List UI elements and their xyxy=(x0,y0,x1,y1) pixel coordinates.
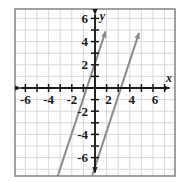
x-axis-label: x xyxy=(165,71,172,85)
y-tick-label: -2 xyxy=(77,104,88,119)
y-tick-label: 2 xyxy=(82,57,89,72)
x-tick-label: 4 xyxy=(129,92,136,107)
coordinate-graph-figure: -6 -4 -2 2 4 6 6 4 2 -2 -4 -6 x y xyxy=(0,0,185,182)
y-axis-label: y xyxy=(98,9,106,23)
x-tick-label: 6 xyxy=(152,92,159,107)
x-tick-label: 2 xyxy=(105,92,112,107)
x-tick-label: -2 xyxy=(66,92,77,107)
y-tick-label: -6 xyxy=(77,150,88,165)
coordinate-plane-svg: -6 -4 -2 2 4 6 6 4 2 -2 -4 -6 x y xyxy=(0,0,185,182)
x-tick-label: -4 xyxy=(43,92,54,107)
y-tick-label: -4 xyxy=(77,127,88,142)
y-tick-label: 6 xyxy=(82,11,89,26)
x-tick-label: -6 xyxy=(20,92,31,107)
y-tick-label: 4 xyxy=(82,34,89,49)
